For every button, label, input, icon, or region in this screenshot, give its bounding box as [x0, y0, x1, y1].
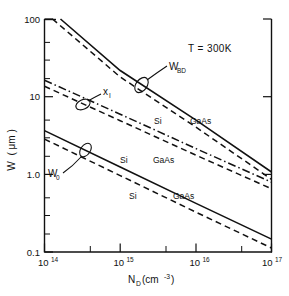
label-w-bd-sub: BD: [177, 67, 186, 74]
line-chart: 100 10 1.0 0.1 10 14 10 15 10 16 10 17: [0, 0, 289, 296]
x-tick-exponent: 15: [127, 256, 135, 263]
label-w-bd: W BD: [169, 61, 186, 74]
x-tick-exponent: 16: [203, 256, 211, 263]
callout-leader-w-bd: [147, 66, 167, 80]
temperature-annotation: T = 300K: [188, 43, 232, 54]
x-tick-exponent: 17: [275, 256, 283, 263]
right-spine-ticks: [263, 19, 272, 174]
x-axis-title-main: N: [128, 274, 135, 285]
label-x-i: x I: [103, 86, 111, 99]
callout-leader-x-i: [88, 94, 101, 101]
x-axis-title-sub: D: [136, 280, 141, 287]
x-tick-mantissa: 10: [38, 257, 49, 268]
x-tick-label-1e16: 10 16: [190, 256, 211, 269]
y-axis-title-main: W: [6, 161, 17, 171]
x-axis-title-unit-close: ): [171, 274, 174, 285]
label-x-i-main: x: [103, 86, 108, 97]
callout-w-bd: [132, 66, 167, 95]
x-tick-label-1e15: 10 15: [114, 256, 135, 269]
label-w-0-sub: 0: [56, 174, 60, 181]
y-axis-title-text: W ( μm ): [6, 129, 17, 171]
y-tick-label-10: 10: [29, 91, 40, 102]
y-axis-title-unit: ( μm ): [6, 129, 17, 155]
label-w-0: W 0: [48, 168, 60, 181]
label-si-bot: Si: [129, 191, 137, 201]
x-tick-mantissa: 10: [262, 257, 273, 268]
figure-container: 100 10 1.0 0.1 10 14 10 15 10 16 10 17: [0, 0, 289, 296]
y-tick-label-0.1: 0.1: [27, 247, 40, 258]
x-tick-exponent: 14: [51, 256, 59, 263]
label-gaas-mid: GaAs: [153, 155, 174, 165]
x-axis-title-unit-exp: -3: [164, 273, 170, 280]
label-si-top: Si: [154, 116, 162, 126]
label-x-i-sub: I: [109, 92, 111, 99]
label-gaas-bot: GaAs: [173, 191, 194, 201]
x-tick-labels: 10 14 10 15 10 16 10 17: [38, 256, 283, 269]
label-gaas-top: GaAs: [190, 116, 211, 126]
y-axis-title: W ( μm ): [6, 129, 17, 171]
axis-frame: [45, 19, 273, 253]
callout-w-0: [63, 141, 94, 173]
curve-w-0-gaas: [45, 131, 272, 240]
callout-x-i: [74, 94, 101, 112]
y-tick-labels: 100 10 1.0 0.1: [24, 14, 40, 258]
x-tick-mantissa: 10: [114, 257, 125, 268]
x-tick-label-1e14: 10 14: [38, 256, 59, 269]
label-si-mid: Si: [120, 155, 128, 165]
x-axis-ticks: [45, 244, 272, 253]
y-tick-label-1: 1.0: [27, 169, 40, 180]
x-axis-title: N D (cm -3 ): [128, 273, 174, 287]
x-tick-label-1e17: 10 17: [262, 256, 283, 269]
x-tick-mantissa: 10: [190, 257, 201, 268]
material-labels-mid: Si GaAs: [120, 155, 174, 165]
x-axis-title-unit: (cm: [142, 274, 159, 285]
y-tick-label-100: 100: [24, 14, 40, 25]
curve-w-bd-gaas: [61, 19, 272, 172]
y-axis-ticks: [45, 19, 54, 252]
series-x-i: [45, 80, 272, 189]
callout-leader-w-0: [63, 156, 82, 173]
